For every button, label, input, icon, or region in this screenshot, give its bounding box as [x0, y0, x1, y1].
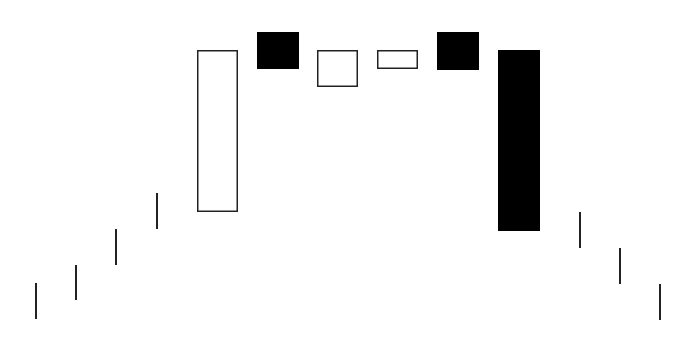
bearish-candle-10: [498, 50, 540, 231]
bearish-candle-9: [437, 32, 479, 70]
bullish-candle-8: [378, 51, 418, 69]
bullish-candle-7: [318, 51, 358, 87]
bullish-candle-5: [198, 51, 238, 212]
bearish-candle-6: [257, 32, 299, 69]
candlestick-chart: [0, 0, 686, 343]
